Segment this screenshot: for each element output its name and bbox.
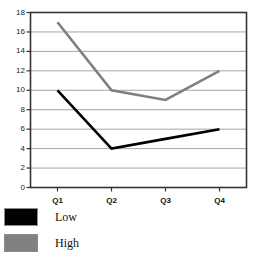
legend-item-low[interactable]: Low <box>4 205 164 229</box>
plot-area: 024681012141618 Q1Q2Q3Q4 <box>0 0 278 200</box>
legend-swatch-low <box>4 208 38 226</box>
legend-swatch-high <box>4 234 38 252</box>
x-tick-label-q1: Q1 <box>52 197 63 205</box>
line-chart: 024681012141618 Q1Q2Q3Q4 LowHigh <box>0 0 278 262</box>
x-tick-label-q2: Q2 <box>106 197 117 205</box>
x-axis-labels: Q1Q2Q3Q4 <box>0 0 278 200</box>
x-tick-label-q4: Q4 <box>214 197 225 205</box>
x-tick-label-q3: Q3 <box>160 197 171 205</box>
chart-legend: LowHigh <box>4 205 164 257</box>
legend-item-high[interactable]: High <box>4 231 164 255</box>
legend-label-low: Low <box>55 211 77 223</box>
legend-label-high: High <box>55 237 79 249</box>
